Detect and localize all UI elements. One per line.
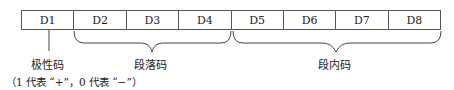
polarity-note: （1 代表 “+”，0 代表 “−”） <box>6 74 142 89</box>
intra-segment-brace <box>233 31 441 52</box>
intra-segment-code-label: 段内码 <box>318 56 351 72</box>
polarity-code-label: 极性码 <box>31 56 64 72</box>
segment-code-label: 段落码 <box>134 56 167 72</box>
segment-brace <box>74 31 231 52</box>
